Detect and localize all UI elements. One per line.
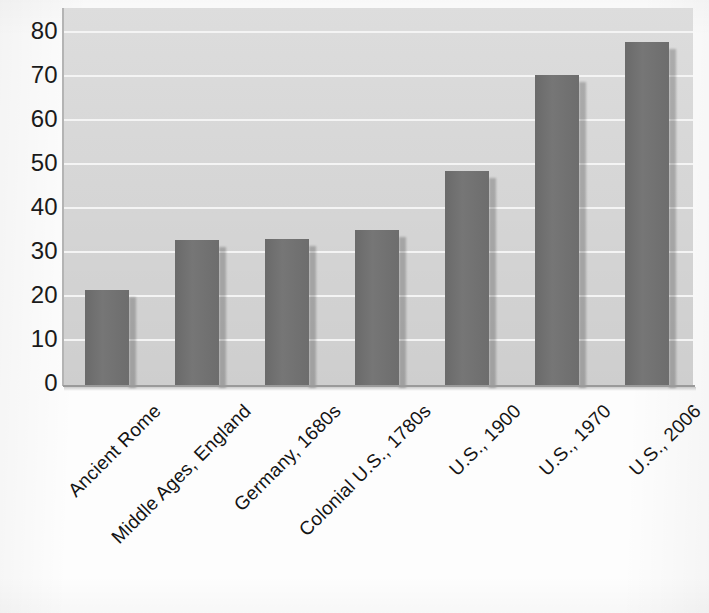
y-tick-label: 40 — [2, 195, 58, 219]
x-tick-label-us-2006: U.S., 2006 — [556, 400, 706, 550]
bar-middle-ages-england[interactable] — [175, 240, 219, 385]
bar-us-1900[interactable] — [445, 171, 489, 385]
y-tick-label: 60 — [2, 107, 58, 131]
plot-area — [63, 8, 693, 385]
x-tick-label-us-1970: U.S., 1970 — [466, 400, 616, 550]
bar-shadow — [219, 247, 226, 388]
bar-slot — [513, 8, 603, 385]
y-tick-label: 30 — [2, 239, 58, 263]
y-axis-line — [62, 8, 64, 386]
y-axis: 80 70 60 50 40 30 20 10 0 — [0, 0, 58, 613]
bar-slot — [63, 8, 153, 385]
bar-slot — [153, 8, 243, 385]
bar-slot — [603, 8, 693, 385]
y-tick-label: 0 — [2, 371, 58, 395]
bar-shadow — [669, 49, 676, 388]
bar-shadow — [489, 178, 496, 388]
x-tick-label-germany-1680s: Germany, 1680s — [196, 400, 346, 550]
y-tick-label: 10 — [2, 327, 58, 351]
bar-shadow — [129, 297, 136, 388]
bar-ancient-rome[interactable] — [85, 290, 129, 385]
bar-shadow — [579, 82, 586, 388]
bar-shadow — [309, 246, 316, 388]
x-axis-shadow — [64, 387, 696, 391]
x-tick-label-middle-ages-england: Middle Ages, England — [106, 400, 256, 550]
bar-shadow — [399, 237, 406, 388]
bar-colonial-us-1780s[interactable] — [355, 230, 399, 385]
bar-us-1970[interactable] — [535, 75, 579, 385]
x-tick-label-us-1900: U.S., 1900 — [376, 400, 526, 550]
bar-chart-figure: 80 70 60 50 40 30 20 10 0 — [0, 0, 709, 613]
bar-slot — [243, 8, 333, 385]
y-tick-label: 80 — [2, 19, 58, 43]
bar-us-2006[interactable] — [625, 42, 669, 385]
x-tick-label-colonial-us-1780s: Colonial U.S., 1780s — [286, 400, 436, 550]
y-tick-label: 70 — [2, 63, 58, 87]
bar-germany-1680s[interactable] — [265, 239, 309, 385]
bar-slot — [333, 8, 423, 385]
bar-slot — [423, 8, 513, 385]
y-tick-label: 50 — [2, 151, 58, 175]
y-tick-label: 20 — [2, 283, 58, 307]
